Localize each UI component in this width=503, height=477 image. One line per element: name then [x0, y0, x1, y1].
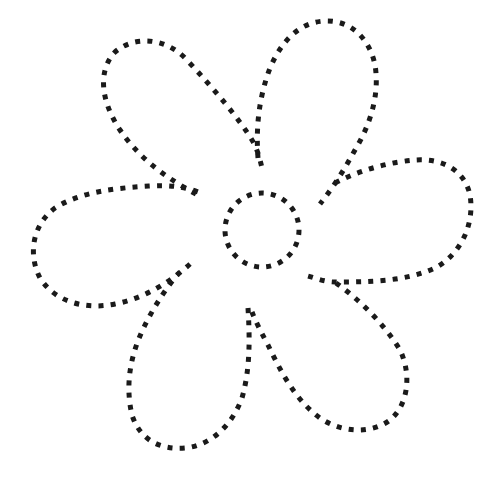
top-right-petal [257, 21, 376, 204]
flower-outline [0, 0, 503, 477]
bottom-right-petal [252, 283, 407, 430]
tracing-canvas: flower [0, 0, 503, 477]
bottom-petal [129, 272, 249, 448]
top-left-petal [104, 41, 262, 194]
flower-center-circle [225, 193, 299, 267]
left-petal [33, 186, 198, 306]
right-petal [308, 160, 471, 282]
